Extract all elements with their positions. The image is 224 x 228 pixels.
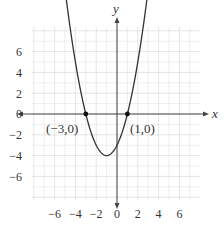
x-axis-label: x (211, 106, 218, 121)
y-tick-label: 4 (16, 66, 22, 80)
point-1-0 (125, 112, 130, 117)
point-neg3-0 (83, 112, 88, 117)
y-tick-label: 0 (16, 107, 22, 121)
x-tick-label: 4 (156, 207, 162, 221)
y-tick-label: −2 (9, 128, 22, 142)
y-axis-label: y (111, 1, 119, 16)
point-label-left: (−3,0) (46, 121, 78, 136)
y-tick-label: −4 (9, 149, 22, 163)
x-tick-label: 0 (114, 207, 120, 221)
x-tick-label: −6 (48, 207, 61, 221)
x-axis-right-arrow-icon (203, 112, 209, 117)
y-tick-label: 6 (16, 45, 22, 59)
x-tick-label: 6 (176, 207, 182, 221)
y-tick-labels: 6 4 2 0 −2 −4 −6 (9, 45, 22, 184)
point-label-right: (1,0) (130, 121, 155, 136)
x-tick-labels: −6 −4 −2 0 2 4 6 (48, 207, 182, 221)
x-tick-label: −4 (69, 207, 82, 221)
y-tick-label: −6 (9, 170, 22, 184)
y-tick-label: 2 (16, 87, 22, 101)
graph-canvas: y x (−3,0) (1,0) 6 4 2 0 −2 −4 −6 −6 −4 … (0, 0, 224, 228)
y-axis-up-arrow-icon (115, 17, 120, 23)
x-axis (17, 112, 209, 117)
x-tick-label: −2 (90, 207, 103, 221)
y-axis (115, 17, 120, 209)
x-tick-label: 2 (135, 207, 141, 221)
